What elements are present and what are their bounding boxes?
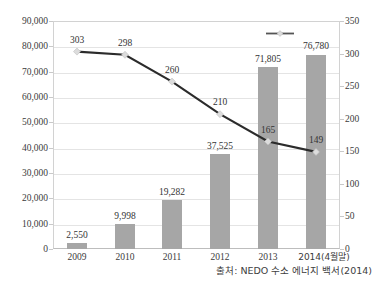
left-axis-tick-label: 20,000 xyxy=(2,194,48,204)
bar-2012[interactable] xyxy=(210,154,230,249)
left-axis-tickmark xyxy=(49,249,53,250)
gridline xyxy=(54,123,339,124)
right-axis-tick-label: 350 xyxy=(345,17,379,27)
left-axis-tick-label: 80,000 xyxy=(2,42,48,52)
line-value-2011: 260 xyxy=(148,66,196,76)
plot-area xyxy=(53,21,340,249)
right-axis-tick-label: 150 xyxy=(345,147,379,157)
x-axis-label-2009: 2009 xyxy=(53,253,101,263)
left-axis-tickmark xyxy=(49,224,53,225)
x-axis-label-2014: 2014(4월말) xyxy=(284,253,364,262)
gridline xyxy=(54,225,339,226)
bar-2013[interactable] xyxy=(258,67,278,249)
line-value-2014: 149 xyxy=(292,136,340,146)
left-axis-tickmark xyxy=(49,46,53,47)
left-axis-tickmark xyxy=(49,97,53,98)
right-axis-tick-label: 250 xyxy=(345,82,379,92)
left-axis-tick-label: 10,000 xyxy=(2,220,48,230)
gridline xyxy=(54,174,339,175)
left-axis-tickmark xyxy=(49,198,53,199)
line-value-2009: 303 xyxy=(53,36,101,46)
right-axis-tick-label: 300 xyxy=(345,50,379,60)
chart-screenshot: 90,000 80,000 70,000 60,000 50,000 40,00… xyxy=(0,0,379,288)
left-axis-tick-label: 90,000 xyxy=(2,17,48,27)
gridline xyxy=(54,199,339,200)
bar-value-2010: 9,998 xyxy=(101,212,149,222)
bar-value-2009: 2,550 xyxy=(53,231,101,241)
line-value-2012: 210 xyxy=(196,98,244,108)
left-axis-tick-label: 0 xyxy=(2,245,48,255)
left-axis-tickmark xyxy=(49,122,53,123)
line-value-2013: 165 xyxy=(244,126,292,136)
bar-value-2014: 76,780 xyxy=(292,42,340,52)
right-axis-tickmark xyxy=(340,54,344,55)
x-axis-label-2010: 2010 xyxy=(101,253,149,263)
right-axis-tickmark xyxy=(340,184,344,185)
right-axis-tickmark xyxy=(340,119,344,120)
left-axis-tick-label: 50,000 xyxy=(2,118,48,128)
right-axis-tickmark xyxy=(340,249,344,250)
left-axis-tick-label: 30,000 xyxy=(2,169,48,179)
bar-2010[interactable] xyxy=(115,224,135,249)
left-axis-tickmark xyxy=(49,72,53,73)
x-axis-label-2011: 2011 xyxy=(148,253,196,263)
bar-value-2011: 19,282 xyxy=(148,188,196,198)
line-value-2010: 298 xyxy=(101,39,149,49)
right-axis-tickmark xyxy=(340,86,344,87)
source-note: 출처: NEDO 수소 에너지 백서(2014) xyxy=(0,266,372,276)
left-axis-tickmark xyxy=(49,173,53,174)
x-axis-label-2012: 2012 xyxy=(196,253,244,263)
right-axis-tick-label: 200 xyxy=(345,115,379,125)
left-axis-tick-label: 40,000 xyxy=(2,144,48,154)
bar-2011[interactable] xyxy=(162,200,182,249)
right-axis-tick-label: 50 xyxy=(345,212,379,222)
left-axis-tick-label: 60,000 xyxy=(2,93,48,103)
bar-value-2013: 71,805 xyxy=(244,55,292,65)
gridline xyxy=(54,73,339,74)
left-axis-tickmark xyxy=(49,21,53,22)
left-axis-tickmark xyxy=(49,148,53,149)
bar-2009[interactable] xyxy=(67,243,87,250)
combo-bar-line-chart: 90,000 80,000 70,000 60,000 50,000 40,00… xyxy=(0,0,379,288)
right-axis-tick-label: 100 xyxy=(345,180,379,190)
right-axis-tickmark xyxy=(340,21,344,22)
right-axis-tickmark xyxy=(340,151,344,152)
right-axis-tickmark xyxy=(340,216,344,217)
left-axis-tick-label: 70,000 xyxy=(2,68,48,78)
bar-2014[interactable] xyxy=(306,55,326,250)
bar-value-2012: 37,525 xyxy=(196,142,244,152)
legend-line-marker-icon[interactable] xyxy=(265,29,295,38)
